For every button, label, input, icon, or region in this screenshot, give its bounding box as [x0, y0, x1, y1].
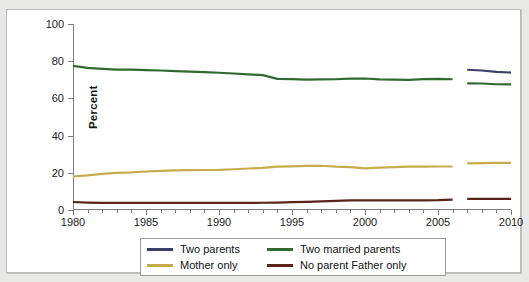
y-tick-label: 40	[52, 130, 64, 142]
x-tick-minor	[336, 210, 337, 213]
legend-label-no-parent-father-only: No parent Father only	[300, 259, 406, 271]
x-tick-major	[146, 210, 147, 215]
x-tick-major	[73, 210, 74, 215]
x-tick-minor	[482, 210, 483, 213]
legend-swatch-mother-only	[147, 264, 173, 267]
x-tick-minor	[161, 210, 162, 213]
x-tick-minor	[117, 210, 118, 213]
x-tick-label: 1990	[207, 216, 231, 228]
legend-item-no-parent-father-only: No parent Father only	[267, 259, 453, 271]
legend-label-two-parents: Two parents	[180, 243, 240, 255]
x-tick-minor	[321, 210, 322, 213]
x-tick-minor	[248, 210, 249, 213]
legend-label-two-married-parents: Two married parents	[300, 243, 400, 255]
x-tick-label: 1980	[61, 216, 85, 228]
y-tick-label: 0	[58, 204, 64, 216]
x-tick-major	[365, 210, 366, 215]
x-tick-label: 2010	[499, 216, 523, 228]
series-line	[73, 166, 453, 177]
legend-item-two-parents: Two parents	[147, 243, 267, 255]
x-tick-minor	[423, 210, 424, 213]
figure-frame: Percent 020406080100 1980198519901995200…	[6, 9, 521, 273]
x-tick-minor	[467, 210, 468, 213]
x-tick-minor	[131, 210, 132, 213]
y-tick-label: 20	[52, 167, 64, 179]
x-tick-label: 1995	[280, 216, 304, 228]
x-tick-label: 2000	[353, 216, 377, 228]
x-tick-minor	[102, 210, 103, 213]
chart-legend: Two parents Two married parents Mother o…	[140, 238, 446, 276]
x-tick-minor	[204, 210, 205, 213]
x-tick-major	[438, 210, 439, 215]
x-tick-major	[219, 210, 220, 215]
x-tick-minor	[380, 210, 381, 213]
x-tick-minor	[394, 210, 395, 213]
x-tick-minor	[453, 210, 454, 213]
x-tick-label: 2005	[426, 216, 450, 228]
series-line	[467, 70, 511, 73]
series-lines	[73, 24, 511, 210]
series-line	[73, 200, 453, 203]
x-tick-minor	[409, 210, 410, 213]
legend-swatch-two-parents	[147, 248, 173, 251]
x-tick-minor	[307, 210, 308, 213]
y-tick-label: 100	[46, 18, 64, 30]
x-tick-minor	[190, 210, 191, 213]
series-line	[467, 83, 511, 84]
y-tick-label: 60	[52, 92, 64, 104]
x-tick-minor	[88, 210, 89, 213]
plot-area: Percent 020406080100 1980198519901995200…	[73, 24, 511, 210]
x-tick-label: 1985	[134, 216, 158, 228]
x-tick-minor	[496, 210, 497, 213]
legend-label-mother-only: Mother only	[180, 259, 237, 271]
x-tick-minor	[175, 210, 176, 213]
legend-swatch-two-married-parents	[267, 248, 293, 251]
x-tick-major	[511, 210, 512, 215]
x-tick-minor	[263, 210, 264, 213]
legend-item-mother-only: Mother only	[147, 259, 267, 271]
x-tick-minor	[234, 210, 235, 213]
x-tick-major	[292, 210, 293, 215]
x-tick-minor	[277, 210, 278, 213]
y-tick-label: 80	[52, 55, 64, 67]
legend-item-two-married-parents: Two married parents	[267, 243, 453, 255]
series-line	[73, 66, 453, 80]
legend-swatch-no-parent-father-only	[267, 264, 293, 267]
x-tick-minor	[350, 210, 351, 213]
